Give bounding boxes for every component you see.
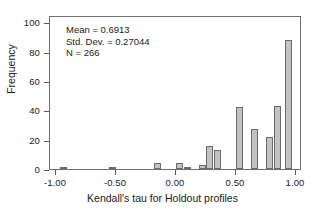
x-tick-mark xyxy=(175,170,176,175)
histogram-bar xyxy=(285,40,293,169)
x-tick-label: -1.00 xyxy=(32,178,78,188)
figure-caption xyxy=(0,211,325,222)
histogram-bar xyxy=(206,146,214,169)
x-tick-mark xyxy=(55,170,56,175)
y-tick-mark xyxy=(44,170,49,171)
y-tick-label: 60 xyxy=(29,77,40,87)
y-axis-title: Frequency xyxy=(5,31,17,107)
x-tick-mark xyxy=(295,170,296,175)
y-tick-label: 100 xyxy=(24,18,40,28)
histogram-bar xyxy=(266,137,274,169)
histogram-bar xyxy=(236,107,244,169)
histogram-bar xyxy=(251,129,259,169)
x-axis-title: Kendall's tau for Holdout profiles xyxy=(0,192,325,204)
histogram-bar xyxy=(184,167,192,169)
histogram-bar xyxy=(60,167,68,169)
y-tick-label: 20 xyxy=(29,136,40,146)
y-tick-label: 80 xyxy=(29,48,40,58)
x-tick-label: -0.50 xyxy=(92,178,138,188)
y-tick-label: 0 xyxy=(35,165,40,175)
histogram-figure: Frequency 020406080100 -1.00-0.500.000.5… xyxy=(0,0,325,222)
histogram-bar xyxy=(274,106,282,169)
y-axis: Frequency 020406080100 xyxy=(0,0,49,186)
x-tick-label: 0.50 xyxy=(212,178,258,188)
histogram-bar xyxy=(154,163,162,169)
histogram-bar xyxy=(176,163,184,169)
sample-size-annotation: N = 266 xyxy=(66,47,150,59)
x-tick-mark xyxy=(235,170,236,175)
x-tick-mark xyxy=(115,170,116,175)
y-tick-label: 40 xyxy=(29,106,40,116)
histogram-bar xyxy=(214,150,222,169)
histogram-bar xyxy=(109,167,117,169)
std-dev-annotation: Std. Dev. = 0.27044 xyxy=(66,36,150,48)
mean-annotation: Mean = 0.6913 xyxy=(66,24,150,36)
x-tick-label: 0.00 xyxy=(152,178,198,188)
x-tick-label: 1.00 xyxy=(272,178,318,188)
histogram-bar xyxy=(199,165,207,169)
statistics-annotation: Mean = 0.6913 Std. Dev. = 0.27044 N = 26… xyxy=(66,24,150,59)
